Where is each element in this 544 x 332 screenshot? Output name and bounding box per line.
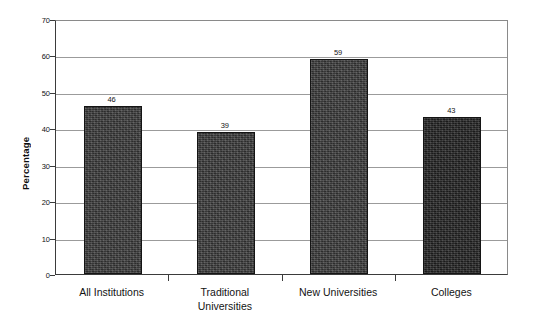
gridline — [56, 94, 507, 95]
bar — [197, 132, 255, 274]
x-axis-category-label: New Universities — [299, 285, 377, 299]
y-axis-tick-label: 0 — [24, 271, 50, 280]
y-axis-tick-label: 60 — [24, 52, 50, 61]
bar-fill — [198, 133, 254, 273]
bar-value-label: 59 — [334, 48, 342, 57]
bar — [84, 106, 142, 274]
x-axis-tick-mark — [395, 275, 396, 281]
y-axis-tick-label: 50 — [24, 88, 50, 97]
x-axis-category-label: All Institutions — [79, 285, 144, 299]
y-axis-tick-label: 70 — [24, 16, 50, 25]
x-axis-tick-mark — [282, 275, 283, 281]
bar-fill — [85, 107, 141, 273]
y-axis-tick-label: 10 — [24, 234, 50, 243]
bar-fill — [424, 118, 480, 273]
bar — [310, 59, 368, 274]
x-axis-category-label: Colleges — [431, 285, 472, 299]
y-axis-tick-label: 40 — [24, 125, 50, 134]
bar-value-label: 46 — [107, 95, 115, 104]
y-axis-tick-label: 30 — [24, 161, 50, 170]
x-axis-tick-mark — [168, 275, 169, 281]
bar-value-label: 43 — [447, 106, 455, 115]
bar-value-label: 39 — [221, 121, 229, 130]
y-axis-tick-mark — [50, 275, 55, 276]
plot-area — [55, 20, 508, 275]
bar-chart: Percentage 010203040506070 46395943 All … — [0, 0, 544, 332]
y-axis-tick-label: 20 — [24, 198, 50, 207]
bar-fill — [311, 60, 367, 273]
x-axis-category-label: Traditional Universities — [198, 285, 252, 313]
gridline — [56, 57, 507, 58]
bar — [423, 117, 481, 274]
